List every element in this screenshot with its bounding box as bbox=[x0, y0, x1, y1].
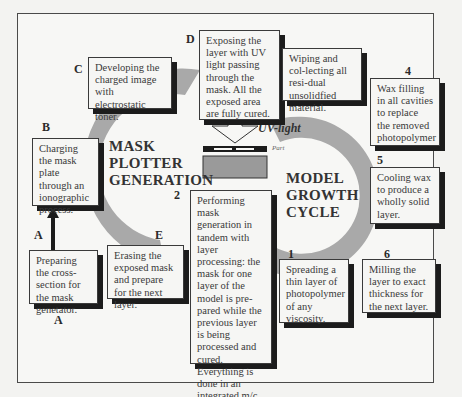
step-box-c: Developing the charged image with electr… bbox=[88, 57, 172, 109]
step-box-a: Preparing the cross-section for the mask… bbox=[29, 250, 98, 304]
title-line: GROWTH bbox=[286, 187, 359, 204]
mask-plotter-title: MASK PLOTTER GENERATION bbox=[109, 138, 213, 189]
step-box-2: Performing mask generation in tandem wit… bbox=[190, 190, 272, 364]
title-line: MASK bbox=[109, 138, 213, 155]
step-label-5: 5 bbox=[377, 153, 383, 168]
step-label-2: 2 bbox=[174, 188, 180, 203]
step-label-a: A bbox=[34, 228, 43, 243]
mask-window bbox=[236, 148, 254, 150]
title-line: GENERATION bbox=[109, 172, 213, 189]
title-line: CYCLE bbox=[286, 204, 359, 221]
mask-window bbox=[214, 148, 232, 150]
step-label-d: D bbox=[186, 32, 195, 47]
title-line: PLOTTER bbox=[109, 155, 213, 172]
step-box-6: Milling the layer to exact thickness for… bbox=[362, 259, 436, 313]
step-box-1: Spreading a thin layer of photopolymer o… bbox=[279, 259, 349, 323]
part-label: Part bbox=[272, 144, 284, 152]
step-box-d: Exposing the layer with UV light passing… bbox=[199, 30, 280, 120]
step-box-e: Erasing the exposed mask and prepare for… bbox=[107, 245, 184, 299]
title-line: MODEL bbox=[286, 170, 359, 187]
step-label-b: B bbox=[42, 120, 50, 135]
uv-light-label: UV-light bbox=[258, 121, 301, 136]
step-box-5: Cooling wax to produce a wholly solid la… bbox=[370, 167, 440, 224]
step-box-4: Wax filling in all cavities to replace t… bbox=[370, 78, 440, 146]
model-growth-title: MODEL GROWTH CYCLE bbox=[286, 170, 359, 221]
step-label-4: 4 bbox=[405, 64, 411, 79]
step-box-b: Charging the mask plate through an ionog… bbox=[32, 138, 99, 206]
step-box-3: Wiping and col-lecting all resi-dual uns… bbox=[282, 48, 362, 101]
uv-arrow-icon bbox=[212, 120, 258, 143]
step-label-e: E bbox=[155, 228, 163, 243]
step-label-c: C bbox=[74, 62, 83, 77]
